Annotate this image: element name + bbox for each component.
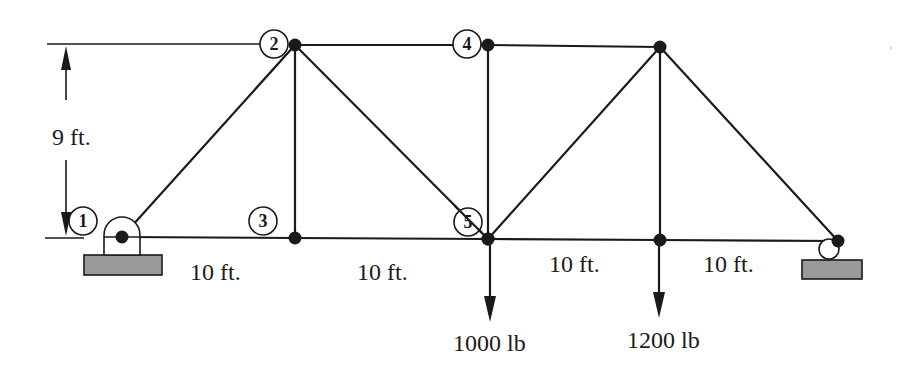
load-label-1000: 1000 lb: [453, 330, 526, 356]
span-labels: 10 ft. 10 ft. 10 ft. 10 ft.: [190, 251, 754, 285]
load-1000: 1000 lb: [453, 240, 526, 356]
joint-label-1: 1: [69, 207, 97, 235]
member-5-7: [488, 239, 660, 240]
truss-members: [122, 45, 838, 241]
member-5-6: [488, 47, 660, 239]
member-7-8: [660, 240, 838, 241]
member-4-6: [488, 45, 660, 47]
height-label: 9 ft.: [52, 124, 91, 150]
svg-text:2: 2: [270, 34, 279, 54]
joint-label-2: 2: [260, 30, 288, 58]
span-label-3: 10 ft.: [549, 251, 600, 277]
joint-label-5: 5: [454, 208, 482, 236]
roller-support-right: [802, 239, 862, 279]
speck: [890, 47, 892, 49]
load-label-1200: 1200 lb: [627, 327, 700, 353]
joint-2: [289, 39, 302, 52]
joint-5-overlay: [482, 233, 495, 246]
member-6-8: [660, 47, 838, 241]
joint-top-right: [654, 41, 667, 54]
support-base-right: [802, 260, 862, 279]
arrow-down-icon: [484, 296, 496, 322]
span-label-4: 10 ft.: [703, 251, 754, 277]
joint-right-support: [832, 235, 845, 248]
member-3-5: [295, 238, 488, 239]
truss-diagram: 9 ft.: [0, 0, 906, 370]
load-1200: 1200 lb: [627, 241, 700, 353]
span-label-2: 10 ft.: [357, 259, 408, 285]
joint-label-3: 3: [249, 207, 277, 235]
svg-text:1: 1: [79, 211, 88, 231]
arrow-up-icon: [61, 46, 71, 70]
svg-text:3: 3: [259, 211, 268, 231]
joint-4: [482, 39, 495, 52]
joint-labels: 1 2 3 4 5: [69, 30, 495, 246]
joint-1: [116, 231, 129, 244]
span-label-1: 10 ft.: [190, 259, 241, 285]
member-1-3: [122, 237, 295, 238]
arrow-down-icon: [653, 292, 665, 318]
support-base-left: [84, 255, 162, 275]
svg-text:4: 4: [463, 34, 472, 54]
joint-label-4: 4: [453, 30, 481, 58]
joint-3: [289, 232, 302, 245]
